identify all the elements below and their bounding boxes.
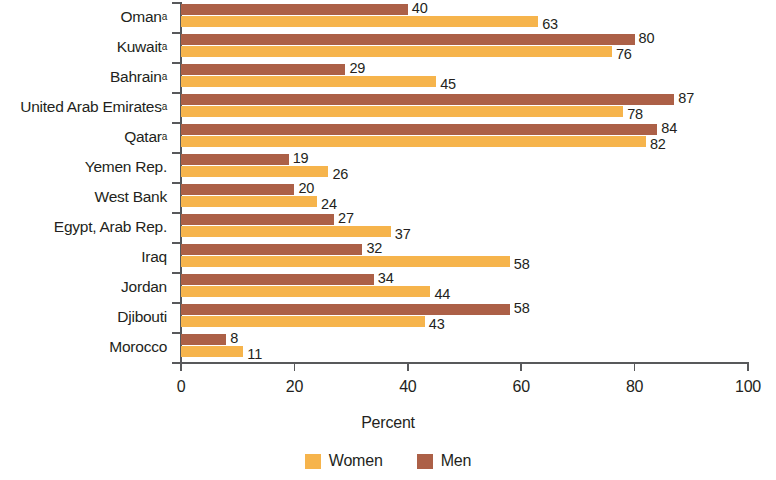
bar-row: 2737 <box>181 212 748 242</box>
x-axis-tick <box>294 362 296 371</box>
category-label-text: United Arab Emirates <box>20 98 161 116</box>
category-label-text: Morocco <box>109 338 167 356</box>
category-label-text: Iraq <box>141 248 167 266</box>
category-label: Djibouti <box>0 302 174 332</box>
bar-men <box>181 304 510 315</box>
x-axis-tick <box>180 362 182 371</box>
y-axis-tick <box>172 272 181 274</box>
y-axis-tick <box>172 152 181 154</box>
bar-men <box>181 4 408 15</box>
x-axis-tick-label: 100 <box>735 378 761 396</box>
legend-label: Men <box>441 452 472 470</box>
bar-men <box>181 94 674 105</box>
x-axis-tick-label: 60 <box>513 378 530 396</box>
bar-value-label-women: 63 <box>542 17 558 32</box>
bar-value-label-women: 43 <box>429 317 445 332</box>
bar-women <box>181 76 436 87</box>
bar-value-label-women: 24 <box>321 197 337 212</box>
bar-value-label-men: 32 <box>366 241 382 256</box>
bar-women <box>181 256 510 267</box>
x-axis-tick-label: 80 <box>626 378 643 396</box>
bar-value-label-women: 26 <box>332 167 348 182</box>
category-label: Jordan <box>0 272 174 302</box>
category-label-text: Yemen Rep. <box>85 158 167 176</box>
category-label-text: Oman <box>120 8 161 26</box>
legend-label: Women <box>329 452 383 470</box>
y-axis-tick <box>172 92 181 94</box>
x-axis-title: Percent <box>0 414 776 432</box>
bar-men <box>181 34 635 45</box>
category-label-text: West Bank <box>95 188 167 206</box>
bar-value-label-women: 58 <box>514 257 530 272</box>
y-axis-tick <box>172 32 181 34</box>
plot-area: 4063807629458778848219262024273732583444… <box>181 2 748 362</box>
category-axis-labels: OmanaKuwaitaBahrainaUnited Arab Emirates… <box>0 2 174 362</box>
bar-men <box>181 124 657 135</box>
bar-row: 5843 <box>181 302 748 332</box>
bar-rows: 4063807629458778848219262024273732583444… <box>181 2 748 362</box>
category-label-text: Qatar <box>124 128 162 146</box>
bar-men <box>181 274 374 285</box>
y-axis-tick <box>172 122 181 124</box>
bar-women <box>181 286 430 297</box>
bar-row: 8778 <box>181 92 748 122</box>
legend-item[interactable]: Women <box>305 452 383 470</box>
bar-women <box>181 106 623 117</box>
bar-value-label-men: 20 <box>298 181 314 196</box>
category-label: Qatara <box>0 122 174 152</box>
bar-value-label-men: 29 <box>349 61 365 76</box>
category-label: Bahraina <box>0 62 174 92</box>
x-axis-tick <box>634 362 636 371</box>
category-label-text: Bahrain <box>110 68 162 86</box>
bar-value-label-men: 80 <box>639 31 655 46</box>
category-label: Morocco <box>0 332 174 362</box>
bar-women <box>181 136 646 147</box>
bar-row: 2024 <box>181 182 748 212</box>
x-axis-line <box>180 362 749 364</box>
y-axis-tick <box>172 2 181 4</box>
x-axis-tick-label: 0 <box>177 378 186 396</box>
bar-women <box>181 166 328 177</box>
bar-value-label-women: 78 <box>627 107 643 122</box>
x-axis-tick-label: 40 <box>399 378 416 396</box>
category-label: Iraq <box>0 242 174 272</box>
bar-row: 3258 <box>181 242 748 272</box>
category-label: United Arab Emiratesa <box>0 92 174 122</box>
bar-value-label-women: 82 <box>650 137 666 152</box>
bar-men <box>181 244 362 255</box>
x-axis-tick-label: 20 <box>286 378 303 396</box>
chart-legend: WomenMen <box>0 452 776 470</box>
x-axis-tick <box>407 362 409 371</box>
category-label-text: Jordan <box>121 278 167 296</box>
category-label: Omana <box>0 2 174 32</box>
legend-item[interactable]: Men <box>417 452 472 470</box>
bar-men <box>181 334 226 345</box>
y-axis-tick <box>172 182 181 184</box>
bar-value-label-women: 45 <box>440 77 456 92</box>
bar-men <box>181 184 294 195</box>
bar-women <box>181 226 391 237</box>
y-axis-tick <box>172 212 181 214</box>
bar-women <box>181 346 243 357</box>
bar-row: 3444 <box>181 272 748 302</box>
legend-swatch-icon <box>305 454 321 469</box>
category-label-text: Kuwait <box>117 38 162 56</box>
y-axis-tick <box>172 242 181 244</box>
bar-row: 4063 <box>181 2 748 32</box>
y-axis-tick <box>172 302 181 304</box>
category-label-text: Djibouti <box>117 308 167 326</box>
y-axis-tick <box>172 62 181 64</box>
bar-value-label-women: 37 <box>395 227 411 242</box>
bar-value-label-men: 84 <box>661 121 677 136</box>
bar-row: 811 <box>181 332 748 362</box>
bar-women <box>181 196 317 207</box>
category-label: Egypt, Arab Rep. <box>0 212 174 242</box>
category-label: Yemen Rep. <box>0 152 174 182</box>
bar-value-label-men: 40 <box>412 1 428 16</box>
bar-value-label-men: 8 <box>230 331 238 346</box>
x-axis-tick <box>520 362 522 371</box>
bar-men <box>181 214 334 225</box>
bar-value-label-men: 34 <box>378 271 394 286</box>
category-label-text: Egypt, Arab Rep. <box>54 218 167 236</box>
bar-women <box>181 316 425 327</box>
